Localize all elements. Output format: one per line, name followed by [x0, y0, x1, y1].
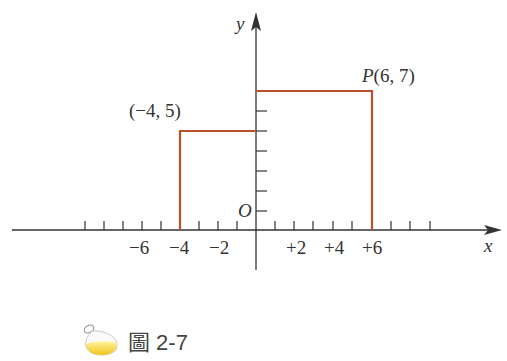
point-a-label: (−4, 5) [129, 101, 181, 120]
flask-icon [80, 324, 122, 356]
coordinate-diagram: y x O −6 −4 −2 +2 +4 +6 (−4, 5) P(6, 7) [0, 0, 507, 280]
point-p-name: P [362, 65, 374, 86]
x-tick-label-p4: +4 [324, 238, 344, 257]
x-tick-label-m6: −6 [129, 238, 149, 257]
x-tick-label-p2: +2 [286, 238, 306, 257]
point-p-lines [256, 91, 372, 230]
x-tick-label-m2: −2 [209, 238, 229, 257]
y-ticks [256, 111, 267, 211]
point-lines [180, 91, 372, 230]
origin-label: O [238, 201, 252, 220]
y-axis-label: y [236, 14, 244, 33]
x-tick-label-p6: +6 [362, 238, 382, 257]
x-tick-label-m4: −4 [169, 238, 189, 257]
point-p-label: P(6, 7) [362, 66, 415, 85]
axes-svg [0, 0, 507, 280]
caption-text: 圖 2-7 [128, 324, 188, 356]
x-ticks [85, 221, 430, 230]
point-p-coords: (6, 7) [374, 65, 415, 86]
figure-caption: 圖 2-7 [80, 325, 188, 355]
x-axis-label: x [484, 236, 492, 255]
